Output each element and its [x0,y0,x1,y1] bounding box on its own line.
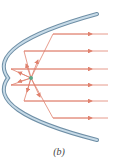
reflected-rays [11,34,108,118]
parabolic-mirror-diagram [0,0,118,162]
figure-caption: (b) [0,146,118,157]
focus-point [29,76,33,80]
mirror [4,14,97,140]
